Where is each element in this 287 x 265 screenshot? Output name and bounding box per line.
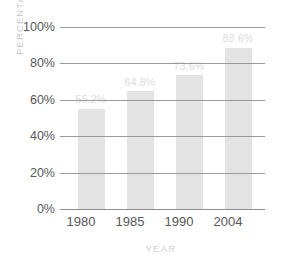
gridline-80 <box>60 63 265 64</box>
bar-group-1985: 64.8% <box>117 27 163 209</box>
bar-value-1985: 64.8% <box>110 76 170 88</box>
y-tick-label-0: 0% <box>15 203 55 216</box>
y-tick-label-100: 100% <box>15 21 55 34</box>
axis-baseline <box>60 209 265 210</box>
x-axis-title: YEAR <box>56 243 266 254</box>
bar-chart: PERCENTAGE 100% 80% 60% 40% 20% 0% 55.2%… <box>0 0 287 265</box>
x-tick-label-2004: 2004 <box>198 214 258 229</box>
bar-group-1990: 73.6% <box>166 27 212 209</box>
gridline-100 <box>60 27 265 28</box>
bar-series: 55.2% 64.8% 73.6% 88.6% <box>60 27 265 209</box>
bar-1990[interactable] <box>176 75 203 209</box>
bar-1985[interactable] <box>127 91 154 209</box>
gridline-20 <box>60 173 265 174</box>
gridline-60 <box>60 100 265 101</box>
gridline-40 <box>60 136 265 137</box>
bar-value-2004: 88.6% <box>208 32 268 44</box>
bar-2004[interactable] <box>225 48 252 210</box>
y-tick-label-60: 60% <box>15 94 55 107</box>
y-tick-label-40: 40% <box>15 130 55 143</box>
bar-1980[interactable] <box>78 109 105 210</box>
bar-group-1980: 55.2% <box>68 27 114 209</box>
plot-area: 55.2% 64.8% 73.6% 88.6% <box>60 27 265 209</box>
y-tick-label-20: 20% <box>15 167 55 180</box>
y-tick-label-80: 80% <box>15 57 55 70</box>
bar-value-1990: 73.6% <box>159 60 219 72</box>
bar-group-2004: 88.6% <box>215 27 261 209</box>
